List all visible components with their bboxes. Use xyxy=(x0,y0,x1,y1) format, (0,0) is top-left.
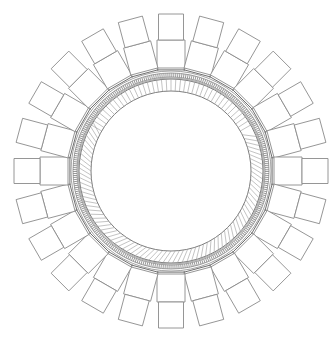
block-pair xyxy=(271,157,328,185)
central-ring xyxy=(70,70,272,272)
block-pair xyxy=(14,157,71,185)
block-pair xyxy=(157,14,185,71)
outer-block xyxy=(302,159,328,184)
ring-block-diagram xyxy=(0,0,336,340)
outer-block xyxy=(14,159,40,184)
block-pair xyxy=(157,271,185,328)
inner-block xyxy=(274,157,302,185)
diagram-canvas xyxy=(0,0,336,340)
inner-block xyxy=(157,274,185,302)
outer-block xyxy=(159,14,184,40)
outer-block xyxy=(159,302,184,328)
inner-block xyxy=(157,40,185,68)
inner-block xyxy=(40,157,68,185)
